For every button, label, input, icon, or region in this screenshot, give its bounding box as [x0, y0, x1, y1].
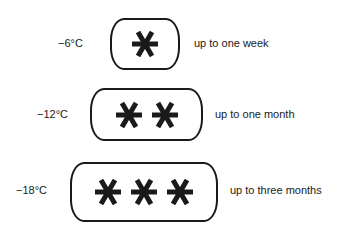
star-box-2: [90, 88, 203, 141]
freezer-star-icon: [165, 177, 195, 207]
star-box-1: [110, 18, 180, 70]
freezer-star-icon: [114, 100, 144, 130]
freezer-star-icon: [130, 29, 160, 59]
duration-label-2: up to one month: [215, 108, 295, 120]
temperature-label-1: −6°C: [58, 37, 83, 49]
duration-label-1: up to one week: [194, 37, 269, 49]
freezer-star-icon: [93, 177, 123, 207]
duration-label-3: up to three months: [230, 184, 322, 196]
temperature-label-3: −18°C: [16, 184, 47, 196]
temperature-label-2: −12°C: [37, 108, 68, 120]
freezer-star-icon: [150, 100, 180, 130]
freezer-star-icon: [129, 177, 159, 207]
star-box-3: [70, 162, 218, 222]
